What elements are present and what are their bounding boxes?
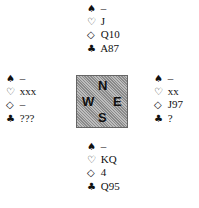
- south-clubs: ♣ Q95: [87, 180, 120, 193]
- north-clubs: ♣ A87: [87, 42, 120, 55]
- heart-icon: ♡: [154, 85, 165, 98]
- north-hearts: ♡ J: [87, 15, 120, 28]
- heart-icon: ♡: [87, 153, 98, 166]
- club-icon: ♣: [6, 112, 17, 125]
- east-hearts: ♡ xx: [154, 85, 183, 98]
- diamond-icon: ◇: [6, 98, 17, 111]
- diamond-icon: ◇: [87, 28, 98, 41]
- diamond-icon: ◇: [87, 166, 98, 179]
- east-diamonds: ◇ J97: [154, 98, 183, 111]
- spade-icon: ♠: [87, 140, 98, 153]
- west-hand: ♠ – ♡ xxx ◇ – ♣ ???: [6, 72, 36, 125]
- compass-north: N: [98, 78, 107, 93]
- club-icon: ♣: [87, 42, 98, 55]
- north-diamonds: ◇ Q10: [87, 28, 120, 41]
- compass-box: N W E S: [76, 75, 128, 128]
- south-diamonds: ◇ 4: [87, 166, 120, 179]
- north-hand: ♠ – ♡ J ◇ Q10 ♣ A87: [87, 2, 120, 55]
- spade-icon: ♠: [87, 2, 98, 15]
- spade-icon: ♠: [154, 72, 165, 85]
- west-clubs: ♣ ???: [6, 112, 36, 125]
- east-clubs: ♣ ?: [154, 112, 183, 125]
- spade-icon: ♠: [6, 72, 17, 85]
- diamond-icon: ◇: [154, 98, 165, 111]
- north-spades: ♠ –: [87, 2, 120, 15]
- heart-icon: ♡: [6, 85, 17, 98]
- east-hand: ♠ – ♡ xx ◇ J97 ♣ ?: [154, 72, 183, 125]
- south-spades: ♠ –: [87, 140, 120, 153]
- west-diamonds: ◇ –: [6, 98, 36, 111]
- east-spades: ♠ –: [154, 72, 183, 85]
- compass-south: S: [98, 110, 107, 125]
- south-hand: ♠ – ♡ KQ ◇ 4 ♣ Q95: [87, 140, 120, 193]
- club-icon: ♣: [87, 180, 98, 193]
- west-spades: ♠ –: [6, 72, 36, 85]
- south-hearts: ♡ KQ: [87, 153, 120, 166]
- west-hearts: ♡ xxx: [6, 85, 36, 98]
- club-icon: ♣: [154, 112, 165, 125]
- compass-east: E: [113, 94, 122, 109]
- compass-west: W: [82, 94, 94, 109]
- heart-icon: ♡: [87, 15, 98, 28]
